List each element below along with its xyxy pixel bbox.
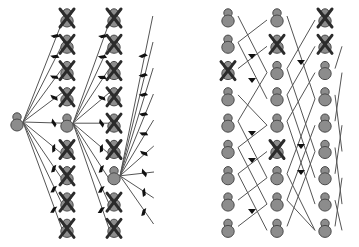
node-body <box>271 15 283 27</box>
node-body <box>271 173 283 185</box>
node-body <box>271 199 283 211</box>
edge-line <box>23 65 65 122</box>
node-alive <box>222 167 234 185</box>
node-alive <box>319 167 331 185</box>
node-alive <box>271 193 283 211</box>
node-alive <box>222 35 234 53</box>
node-eliminated <box>107 35 121 53</box>
marker-shape <box>248 131 256 136</box>
node-eliminated <box>107 219 121 237</box>
edge-line <box>23 122 64 123</box>
node-body <box>319 199 331 211</box>
node-eliminated <box>107 114 121 132</box>
edge-line <box>287 174 315 231</box>
marker-shape <box>138 52 147 61</box>
edge-line <box>120 172 154 176</box>
edge-line <box>335 178 342 227</box>
edge-line <box>335 148 342 205</box>
edge-line <box>238 174 267 231</box>
node-body <box>271 120 283 132</box>
node-alive <box>319 219 331 237</box>
node-alive <box>222 193 234 211</box>
node-body <box>11 119 23 131</box>
message-marker-icon <box>297 144 305 149</box>
right-nodes <box>221 9 332 238</box>
node-alive <box>271 167 283 185</box>
node-eliminated <box>107 140 121 158</box>
node-eliminated <box>318 35 332 53</box>
marker-shape <box>248 54 256 59</box>
node-body <box>222 147 234 159</box>
node-body <box>222 120 234 132</box>
node-eliminated <box>60 140 74 158</box>
node-eliminated <box>107 193 121 211</box>
edge-line <box>287 16 315 99</box>
right-mesh-diagram <box>221 9 342 238</box>
marker-shape <box>50 95 59 101</box>
node-alive <box>319 193 331 211</box>
node-alive <box>271 114 283 132</box>
node-eliminated <box>270 140 284 158</box>
diagram-canvas <box>0 0 359 247</box>
edge-line <box>335 46 342 68</box>
node-alive <box>11 113 23 131</box>
edge-line <box>238 121 267 178</box>
marker-shape <box>297 144 305 149</box>
node-alive <box>319 114 331 132</box>
node-body <box>319 147 331 159</box>
node-body <box>222 94 234 106</box>
node-alive <box>222 140 234 158</box>
node-body <box>222 199 234 211</box>
edge-line <box>238 42 267 99</box>
node-eliminated <box>60 61 74 79</box>
node-body <box>319 225 331 237</box>
edge-line <box>73 123 111 208</box>
message-marker-icon <box>138 52 147 61</box>
node-alive <box>271 88 283 106</box>
node-alive <box>222 219 234 237</box>
node-eliminated <box>60 193 74 211</box>
node-eliminated <box>318 9 332 27</box>
node-body <box>61 120 73 132</box>
edge-line <box>238 178 267 200</box>
edge-line <box>335 125 342 174</box>
edge-line <box>23 122 64 208</box>
node-alive <box>108 167 120 185</box>
node-eliminated <box>60 9 74 27</box>
node-alive <box>319 61 331 79</box>
node-body <box>319 120 331 132</box>
marker-shape <box>139 91 148 99</box>
node-eliminated <box>60 167 74 185</box>
node-body <box>222 15 234 27</box>
node-body <box>319 173 331 185</box>
edge-line <box>335 95 342 152</box>
message-marker-icon <box>248 54 256 59</box>
message-marker-icon <box>50 95 59 101</box>
node-alive <box>271 9 283 27</box>
edge-line <box>120 176 154 198</box>
node-body <box>319 68 331 80</box>
node-eliminated <box>221 61 235 79</box>
node-alive <box>61 114 73 132</box>
edge-line <box>238 152 267 174</box>
node-eliminated <box>270 35 284 53</box>
node-body <box>222 41 234 53</box>
node-alive <box>222 88 234 106</box>
message-marker-icon <box>139 91 148 99</box>
node-body <box>222 225 234 237</box>
edge-line <box>238 16 267 73</box>
edge-line <box>120 176 154 224</box>
node-body <box>271 94 283 106</box>
node-eliminated <box>60 35 74 53</box>
edge-line <box>73 123 111 182</box>
edge-line <box>238 95 267 125</box>
left-broadcast-diagram <box>11 9 154 238</box>
node-eliminated <box>107 9 121 27</box>
node-alive <box>222 9 234 27</box>
edge-line <box>238 204 267 226</box>
node-body <box>271 225 283 237</box>
edge-line <box>120 42 153 176</box>
edge-line <box>23 122 64 182</box>
node-alive <box>319 140 331 158</box>
node-eliminated <box>60 219 74 237</box>
